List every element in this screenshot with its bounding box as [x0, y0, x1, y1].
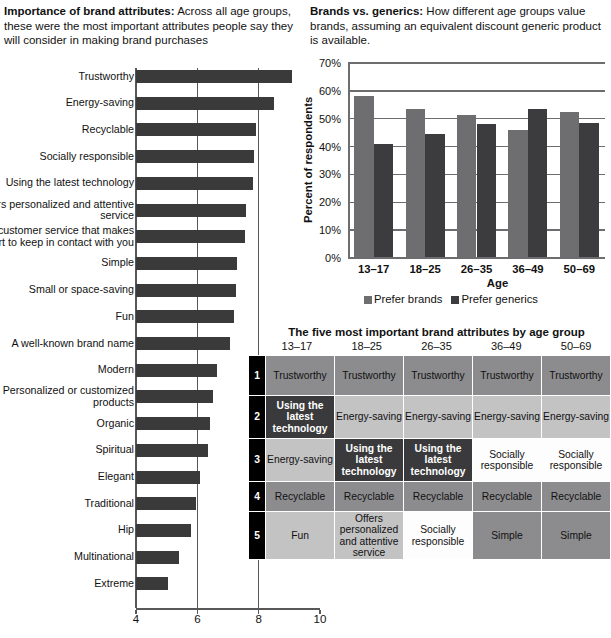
table-cell: Trustworthy: [473, 356, 542, 396]
table-row: 5FunOffers personalized and attentive se…: [249, 512, 611, 560]
bar: [136, 310, 234, 323]
left-panel-heading: Importance of brand attributes: Across a…: [4, 4, 304, 48]
bar-category-label: Small or space-saving: [0, 284, 134, 296]
bar-category-label: Extreme: [0, 578, 134, 590]
table-cell: Energy-saving: [266, 439, 335, 482]
bar-category-label: Organic: [0, 418, 134, 430]
bar: [136, 123, 256, 136]
bar: [136, 364, 217, 377]
bar-category-label: Energy-saving: [0, 97, 134, 109]
column-bar: [508, 130, 528, 258]
table-cell: Socially responsible: [473, 439, 542, 482]
table-cell: Simple: [473, 512, 542, 560]
x-axis-tick-label: 10: [314, 613, 327, 625]
y-axis-tick-label: 50%: [315, 113, 341, 125]
bar-category-label: A well-known brand name: [0, 338, 134, 350]
bar: [136, 577, 168, 590]
bar: [136, 417, 210, 430]
bar-category-label: Spiritual: [0, 444, 134, 456]
x-axis-category-label: 13–17: [358, 263, 389, 275]
y-axis-tick-label: 70%: [315, 57, 341, 69]
column-bar: [406, 109, 426, 258]
bar: [136, 70, 292, 83]
x-axis-tick-label: 4: [133, 613, 139, 625]
table-row: 1TrustworthyTrustworthyTrustworthyTrustw…: [249, 356, 611, 396]
bar-category-label: Elegant: [0, 471, 134, 483]
bar: [136, 177, 253, 190]
y-axis-tick-label: 0%: [315, 252, 341, 264]
x-axis-category-label: 50–69: [564, 263, 595, 275]
table-cell: Offers personalized and attentive servic…: [335, 512, 404, 560]
bar-category-label: Using the latest technology: [0, 177, 134, 189]
x-axis-tick-label: 6: [194, 613, 200, 625]
brands-vs-generics-chart: Percent of respondents0%10%20%30%40%50%6…: [300, 55, 611, 310]
x-axis-title: Age: [300, 277, 611, 289]
bar: [136, 444, 208, 457]
table-row-number: 2: [249, 396, 266, 439]
column-bar: [457, 115, 477, 258]
legend-swatch-icon: [364, 296, 372, 304]
x-axis-category-label: 26–35: [461, 263, 492, 275]
table-column-header: 13–17: [262, 340, 332, 352]
bar: [136, 390, 213, 403]
right-panel-heading-bold: Brands vs. generics:: [310, 5, 423, 17]
y-axis-line: [348, 63, 350, 258]
legend-swatch-icon: [451, 296, 459, 304]
bar: [136, 337, 230, 350]
table-row-number: 4: [249, 482, 266, 512]
bar: [136, 97, 274, 110]
y-axis-tick-label: 40%: [315, 141, 341, 153]
column-bar: [579, 123, 599, 258]
table-cell: Fun: [266, 512, 335, 560]
bar-category-label: Recyclable: [0, 124, 134, 136]
table-cell: Energy-saving: [542, 396, 611, 439]
table-row-number: 5: [249, 512, 266, 560]
table-cell: Using the latest technology: [404, 439, 473, 482]
left-panel-heading-bold: Importance of brand attributes:: [4, 5, 175, 17]
table-cell: Energy-saving: [473, 396, 542, 439]
chart-legend: Prefer brandsPrefer generics: [300, 293, 611, 305]
y-axis-title: Percent of respondents: [302, 96, 314, 222]
column-bar: [477, 124, 497, 258]
top-attributes-table: 1TrustworthyTrustworthyTrustworthyTrustw…: [248, 355, 611, 560]
x-axis-tick-label: 8: [255, 613, 261, 625]
bar-category-label: Offers personalized and attentive servic…: [0, 199, 134, 222]
bar-category-label: Trustworthy: [0, 71, 134, 83]
table-cell: Trustworthy: [335, 356, 404, 396]
y-axis-tick-label: 10%: [315, 224, 341, 236]
bar: [136, 497, 196, 510]
table-column-headers: 13–1718–2526–3536–4950–69: [248, 340, 611, 352]
column-bar: [354, 96, 374, 258]
bar: [136, 150, 254, 163]
table-cell: Trustworthy: [266, 356, 335, 396]
table-row: 2Using the latest technologyEnergy-savin…: [249, 396, 611, 439]
table-row: 3Energy-savingUsing the latest technolog…: [249, 439, 611, 482]
bar: [136, 524, 191, 537]
table-cell: Energy-saving: [335, 396, 404, 439]
table-cell: Trustworthy: [404, 356, 473, 396]
table-cell: Energy-saving: [404, 396, 473, 439]
table-cell: Socially responsible: [404, 512, 473, 560]
x-axis-category-label: 18–25: [409, 263, 440, 275]
bar: [136, 230, 245, 243]
y-axis-tick-label: 60%: [315, 85, 341, 97]
column-bar: [528, 109, 548, 258]
y-axis-tick-label: 30%: [315, 168, 341, 180]
table-cell: Simple: [542, 512, 611, 560]
legend-label: Prefer generics: [461, 293, 538, 305]
table-column-header: 50–69: [541, 340, 611, 352]
bar-category-label: Hip: [0, 524, 134, 536]
table-column-header: 26–35: [402, 340, 472, 352]
y-gridline: [348, 62, 605, 63]
x-axis-category-label: 36–49: [512, 263, 543, 275]
table-cell: Recyclable: [335, 482, 404, 512]
table-cell: Using the latest technology: [266, 396, 335, 439]
table-cell: Socially responsible: [542, 439, 611, 482]
table-cell: Recyclable: [542, 482, 611, 512]
bar-category-label: Modern: [0, 364, 134, 376]
bar: [136, 284, 236, 297]
top-attributes-table-wrapper: The five most important brand attributes…: [248, 326, 611, 560]
bar-category-label: Multinational: [0, 551, 134, 563]
bar: [136, 257, 237, 270]
right-panel-heading: Brands vs. generics: How different age g…: [310, 4, 608, 48]
